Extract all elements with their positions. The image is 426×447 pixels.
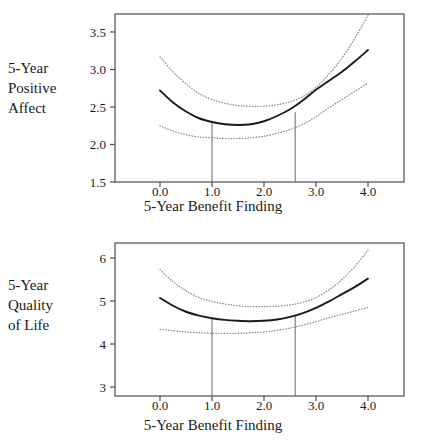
x-axis-title-quality-of-life: 5-Year Benefit Finding	[0, 417, 426, 434]
y-tick-label: 3	[100, 380, 107, 395]
x-tick-label: 2.0	[256, 184, 272, 199]
plot-area-positive-affect: 1.52.02.53.03.50.01.02.03.04.0	[0, 0, 426, 224]
chart-panel-positive-affect: 5-Year Positive Affect 1.52.02.53.03.50.…	[0, 0, 426, 224]
y-tick-label: 3.0	[90, 62, 106, 77]
plot-frame	[115, 14, 404, 182]
x-tick-label: 0.0	[152, 398, 168, 413]
y-tick-label: 2.0	[90, 137, 106, 152]
x-tick-label: 2.0	[256, 398, 272, 413]
y-tick-label: 5	[100, 294, 107, 309]
x-tick-label: 1.0	[204, 184, 220, 199]
y-tick-label: 3.5	[90, 25, 106, 40]
y-tick-label: 6	[100, 251, 107, 266]
plot-area-quality-of-life: 34560.01.02.03.04.0	[0, 224, 426, 447]
plot-frame	[115, 243, 404, 396]
y-tick-label: 2.5	[90, 100, 106, 115]
x-tick-label: 3.0	[308, 184, 324, 199]
chart-panel-quality-of-life: 5-Year Quality of Life 34560.01.02.03.04…	[0, 224, 426, 447]
x-axis-title-positive-affect: 5-Year Benefit Finding	[0, 198, 426, 215]
x-tick-label: 4.0	[360, 184, 376, 199]
x-tick-label: 4.0	[360, 398, 376, 413]
x-tick-label: 0.0	[152, 184, 168, 199]
y-tick-label: 1.5	[90, 175, 106, 190]
y-tick-label: 4	[100, 337, 107, 352]
x-tick-label: 1.0	[204, 398, 220, 413]
x-tick-label: 3.0	[308, 398, 324, 413]
